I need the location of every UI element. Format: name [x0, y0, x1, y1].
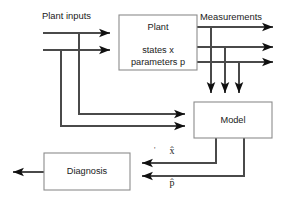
wire-group-measurements — [197, 27, 273, 62]
plant-block[interactable]: Plant states x parameters p — [119, 15, 197, 70]
parameter-estimate-wire — [142, 138, 244, 176]
measurements-label: Measurements — [200, 11, 262, 22]
model-block-label: Model — [220, 115, 245, 125]
plant-inputs-label: Plant inputs — [42, 10, 91, 21]
parameter-estimate-label: p̂ — [170, 177, 175, 188]
block-diagram-svg: Plant states x parameters p Model Diagno… — [0, 0, 288, 204]
block-diagram-canvas: Plant states x parameters p Model Diagno… — [0, 0, 288, 204]
plant-block-label-3: parameters p — [131, 57, 185, 67]
state-estimate-label: x̂ — [170, 145, 175, 156]
tick-mark-label: ' — [154, 146, 156, 155]
model-block[interactable]: Model — [194, 102, 272, 138]
plant-block-label-1: Plant — [148, 22, 169, 32]
diagnosis-block-label: Diagnosis — [67, 166, 108, 176]
plant-block-label-2: states x — [142, 45, 174, 55]
wire-group-measurement-taps — [211, 27, 239, 93]
diagnosis-block[interactable]: Diagnosis — [44, 153, 130, 190]
